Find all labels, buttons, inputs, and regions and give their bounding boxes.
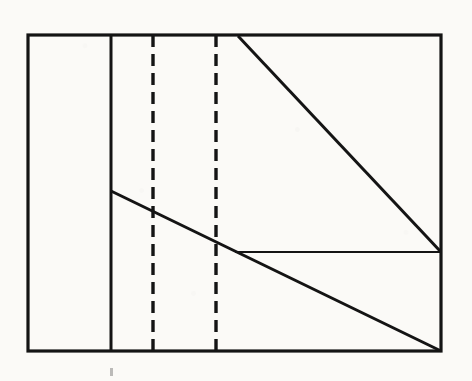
faint-tick-mark [110, 368, 113, 376]
upper-diagonal [238, 36, 441, 252]
outer-rectangle [28, 35, 441, 351]
lower-diagonal [111, 191, 441, 351]
line-drawing [0, 0, 472, 381]
figure-canvas: Technical line drawing — rectangular fra… [0, 0, 472, 381]
